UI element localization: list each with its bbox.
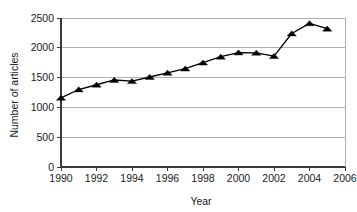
x-axis-title: Year [190,195,212,207]
x-tick-label-2002: 2002 [262,172,286,184]
y-axis-title: Number of articles [8,52,20,137]
chart-container: 199019921994199619982000200220042006 050… [0,0,357,212]
x-tick-label-2000: 2000 [227,172,251,184]
x-tick-label-1994: 1994 [120,172,144,184]
y-tick-label-2500: 2500 [31,12,55,24]
y-tick-label-0: 0 [48,161,54,173]
y-tick-label-2000: 2000 [31,41,55,53]
x-axis-tick-labels: 199019921994199619982000200220042006 [49,172,357,184]
y-tick-label-1000: 1000 [31,101,55,113]
x-tick-label-1990: 1990 [49,172,73,184]
x-tick-label-1998: 1998 [191,172,215,184]
y-tick-label-1500: 1500 [31,71,55,83]
x-tick-label-2006: 2006 [333,172,357,184]
line-chart: 199019921994199619982000200220042006 050… [0,0,357,212]
y-tick-label-500: 500 [36,131,54,143]
x-tick-label-1996: 1996 [156,172,180,184]
x-tick-label-1992: 1992 [85,172,109,184]
x-tick-label-2004: 2004 [298,172,322,184]
